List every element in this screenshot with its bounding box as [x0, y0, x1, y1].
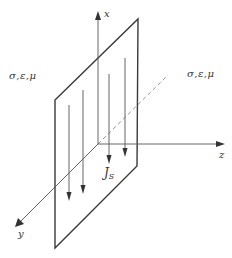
z-axis [98, 141, 225, 147]
conducting-sheet [55, 19, 138, 248]
z-axis-label: z [219, 150, 224, 160]
diagram-canvas: σ,ε,μ σ,ε,μ x z y JS [0, 0, 232, 258]
current-subscript: S [109, 172, 114, 181]
x-axis-arrowhead-icon [95, 11, 101, 20]
medium-params-left: σ,ε,μ [9, 71, 37, 81]
x-axis [95, 11, 101, 144]
down-arrow-icon [81, 185, 86, 194]
diagram-graphics [0, 0, 232, 258]
y-axis-dashed-extension [98, 75, 168, 144]
down-arrow-icon [107, 155, 112, 164]
surface-current-label: JS [104, 167, 114, 181]
y-axis-label: y [18, 229, 24, 239]
y-axis [15, 144, 98, 227]
down-arrow-icon [123, 148, 128, 157]
medium-params-right: σ,ε,μ [187, 69, 215, 79]
z-axis-arrowhead-icon [216, 141, 225, 147]
x-axis-label: x [104, 9, 110, 19]
down-arrow-icon [67, 192, 72, 201]
